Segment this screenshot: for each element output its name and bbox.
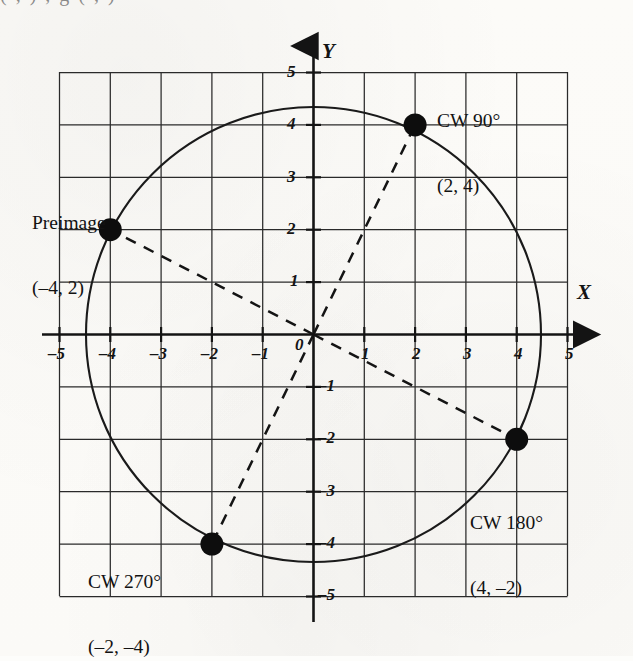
x-tick-1: 1 bbox=[361, 344, 370, 363]
callout-cw90: CW 90° (2, 4) bbox=[437, 66, 500, 219]
y-tick-2: 2 bbox=[287, 219, 296, 238]
x-tick-5: 5 bbox=[565, 344, 574, 363]
y-tick--3: –3 bbox=[318, 481, 335, 500]
y-tick--1: –1 bbox=[318, 376, 335, 395]
x-tick-4: 4 bbox=[514, 344, 523, 363]
callout-preimage-title: Preimage bbox=[32, 212, 106, 234]
y-tick--4: –4 bbox=[318, 533, 335, 552]
callout-cw270-coords: (–2, –4) bbox=[88, 636, 161, 658]
callout-cw180-title: CW 180° bbox=[470, 512, 543, 534]
y-tick-4: 4 bbox=[287, 114, 296, 133]
x-tick--1: –1 bbox=[252, 344, 269, 363]
x-tick--4: –4 bbox=[99, 344, 116, 363]
point-cw-270 bbox=[200, 533, 223, 556]
callout-cw180: CW 180° (4, –2) bbox=[470, 468, 543, 621]
y-tick-1: 1 bbox=[290, 271, 299, 290]
callout-cw270-title: CW 270° bbox=[88, 571, 161, 593]
x-tick--5: –5 bbox=[48, 344, 65, 363]
y-tick--2: –2 bbox=[318, 428, 335, 447]
y-tick-3: 3 bbox=[287, 167, 296, 186]
point-cw-180 bbox=[505, 428, 528, 451]
callout-cw270: CW 270° (–2, –4) bbox=[88, 527, 161, 661]
y-tick--5: –5 bbox=[318, 585, 335, 604]
point-cw-90 bbox=[404, 113, 427, 136]
callout-cw90-coords: (2, 4) bbox=[437, 175, 500, 197]
x-tick--2: –2 bbox=[201, 344, 218, 363]
x-axis-label: X bbox=[577, 281, 591, 305]
callout-preimage: Preimage (–4, 2) bbox=[32, 168, 106, 321]
x-tick-2: 2 bbox=[412, 344, 421, 363]
callout-preimage-coords: (–4, 2) bbox=[32, 277, 106, 299]
callout-cw180-coords: (4, –2) bbox=[470, 577, 543, 599]
x-tick--3: –3 bbox=[150, 344, 167, 363]
y-tick-5: 5 bbox=[287, 62, 296, 81]
x-tick-3: 3 bbox=[463, 344, 472, 363]
y-axis-label: Y bbox=[322, 40, 335, 64]
callout-cw90-title: CW 90° bbox=[437, 110, 500, 132]
origin-label: 0 bbox=[295, 335, 304, 354]
